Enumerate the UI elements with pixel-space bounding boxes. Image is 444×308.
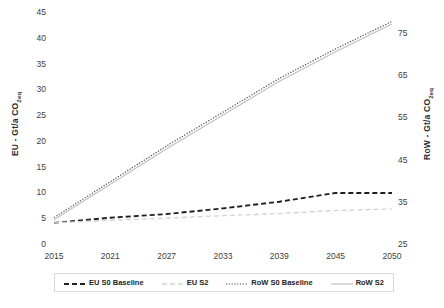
series-line-eu-s0-baseline (54, 193, 392, 223)
legend-item[interactable]: EU S0 Baseline (64, 279, 144, 287)
chart-container: EU - Gt/a CO2eq RoW - Gt/a CO2eq 4540353… (0, 0, 444, 308)
legend-swatch-icon (162, 280, 184, 286)
legend-swatch-icon (226, 280, 248, 286)
legend-item-label: RoW S2 (356, 279, 384, 287)
legend-item-label: EU S2 (187, 279, 209, 287)
legend-item[interactable]: RoW S0 Baseline (226, 279, 312, 287)
chart-legend: EU S0 BaselineEU S2RoW S0 BaselineRoW S2 (54, 273, 394, 292)
legend-item-label: EU S0 Baseline (89, 279, 144, 287)
series-line-eu-s2 (54, 209, 392, 223)
legend-swatch-icon (64, 280, 86, 286)
legend-item[interactable]: EU S2 (162, 279, 209, 287)
legend-item[interactable]: RoW S2 (331, 279, 384, 287)
series-line-row-s2 (54, 24, 392, 220)
legend-item-label: RoW S0 Baseline (251, 279, 312, 287)
legend-swatch-icon (331, 280, 353, 286)
plot-area (0, 0, 444, 308)
